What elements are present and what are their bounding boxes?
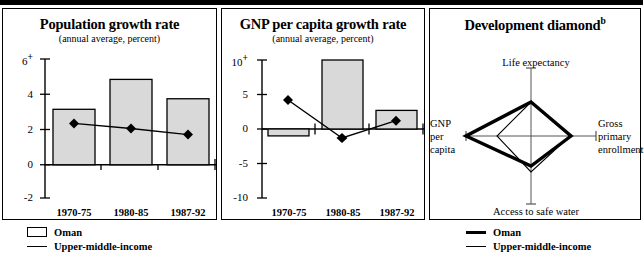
ytick-label-pop-4: 6+ (7, 52, 33, 67)
legend-swatch-thin-line-icon-2 (466, 246, 486, 247)
marker-umi-gnp-1970-75 (283, 95, 293, 105)
legend-item-oman-right: Oman (466, 225, 591, 239)
panel-development-diamond: Development diamondb Life expectancy Acc… (429, 8, 641, 220)
bar-oman-1980-85 (110, 79, 152, 164)
xtick-label-gnp-1: 1980-85 (313, 207, 373, 218)
bar-oman-1970-75 (53, 109, 95, 164)
ytick-label-gnp-1: -5 (222, 157, 248, 169)
legend-label-oman-left: Oman (54, 227, 82, 238)
ytick-label-gnp-2: 0 (222, 122, 248, 134)
top-rule-gap (0, 5, 643, 7)
diamond-axis-label-top: Life expectancy (476, 56, 596, 69)
diamond-oman (466, 102, 571, 166)
ytick-label-gnp-0: -10 (222, 191, 248, 203)
diamond-axis-label-left: GNPpercapita (430, 117, 466, 156)
bar-oman-gnp-1980-85 (322, 60, 363, 129)
plot-area-population: 6+ 4 2 0 -2 1970-75 1980-85 1987-92 (3, 9, 218, 221)
panel-population-growth-rate: Population growth rate (annual average, … (2, 8, 217, 220)
gnp-chart-svg (222, 9, 426, 221)
population-chart-svg (3, 9, 218, 221)
diamond-axis-label-bottom: Access to safe water (476, 205, 596, 218)
legend-label-umi-left: Upper-middle-income (54, 241, 152, 252)
legend-swatch-thin-line-icon (27, 246, 47, 247)
xtick-label-pop-0: 1970-75 (44, 207, 104, 218)
xtick-label-pop-2: 1987-92 (158, 207, 218, 218)
legend-label-umi-right: Upper-middle-income (493, 241, 591, 252)
plot-area-gnp: 10+ 5 0 -5 -10 1970-75 1980-85 1987-92 (222, 9, 426, 221)
legend-swatch-box-icon (27, 227, 47, 237)
legend-item-oman-left: Oman (27, 225, 152, 239)
legend-left: Oman Upper-middle-income (27, 225, 152, 253)
xtick-label-gnp-0: 1970-75 (259, 207, 319, 218)
ytick-label-gnp-3: 5 (222, 88, 248, 100)
legend-item-umi-right: Upper-middle-income (466, 239, 591, 253)
legend-right: Oman Upper-middle-income (466, 225, 591, 253)
ytick-label-gnp-4: 10+ (222, 53, 248, 68)
diamond-axis-label-right: Grossprimaryenrollment (598, 117, 644, 156)
diamond-chart-svg (430, 9, 642, 221)
bar-oman-gnp-1970-75 (268, 129, 309, 136)
ytick-label-pop-1: 0 (7, 158, 33, 170)
ytick-label-pop-0: -2 (7, 191, 33, 203)
ytick-label-pop-3: 4 (7, 88, 33, 100)
panel-gnp-per-capita-growth-rate: GNP per capita growth rate (annual avera… (221, 8, 425, 220)
legend-item-umi-left: Upper-middle-income (27, 239, 152, 253)
xtick-label-pop-1: 1980-85 (101, 207, 161, 218)
plot-area-diamond: Life expectancy Access to safe water GNP… (430, 9, 642, 221)
xtick-label-gnp-2: 1987-92 (367, 207, 427, 218)
legend-swatch-thick-line-icon (466, 231, 486, 234)
legend-label-oman-right: Oman (493, 227, 521, 238)
ytick-label-pop-2: 2 (7, 123, 33, 135)
